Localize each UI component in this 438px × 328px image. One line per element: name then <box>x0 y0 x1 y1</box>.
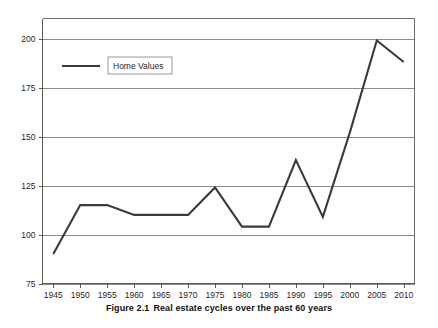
tick-marks-group <box>39 40 405 288</box>
x-axis-label-1985: 1985 <box>259 290 278 300</box>
x-axis-label-1975: 1975 <box>206 290 225 300</box>
y-axis-label-100: 100 <box>21 230 35 240</box>
y-axis-label-125: 125 <box>21 181 35 191</box>
x-axis-label-1955: 1955 <box>98 290 117 300</box>
x-axis-label-1945: 1945 <box>44 290 63 300</box>
figure-caption-text: Real estate cycles over the past 60 year… <box>153 303 332 313</box>
y-axis-label-75: 75 <box>26 279 36 289</box>
legend-label-home-values: Home Values <box>113 61 163 71</box>
x-axis-label-1950: 1950 <box>71 290 90 300</box>
chart-plot-area: 75100125150175200 1945195019551960196519… <box>0 0 438 300</box>
y-axis-tick-labels: 75100125150175200 <box>21 34 35 289</box>
x-axis-label-1995: 1995 <box>313 290 332 300</box>
x-axis-label-1965: 1965 <box>152 290 171 300</box>
x-axis-label-2000: 2000 <box>340 290 359 300</box>
figure-caption-number: Figure 2.1 <box>106 303 150 313</box>
figure-container: 75100125150175200 1945195019551960196519… <box>0 0 438 328</box>
x-axis-label-2005: 2005 <box>367 290 386 300</box>
line-chart: 75100125150175200 1945195019551960196519… <box>0 0 438 300</box>
data-line-home-values <box>53 40 403 254</box>
chart-legend: Home Values <box>62 57 172 74</box>
data-series-group <box>53 40 403 254</box>
gridlines-group <box>43 40 415 285</box>
y-axis-label-175: 175 <box>21 83 35 93</box>
x-axis-label-2010: 2010 <box>394 290 413 300</box>
x-axis-label-1990: 1990 <box>286 290 305 300</box>
plot-frame <box>43 19 415 284</box>
figure-caption: Figure 2.1Real estate cycles over the pa… <box>0 303 438 313</box>
x-axis-tick-labels: 1945195019551960196519701975198019851990… <box>44 290 414 300</box>
x-axis-label-1970: 1970 <box>179 290 198 300</box>
x-axis-label-1960: 1960 <box>125 290 144 300</box>
y-axis-label-150: 150 <box>21 132 35 142</box>
x-axis-label-1980: 1980 <box>233 290 252 300</box>
y-axis-label-200: 200 <box>21 34 35 44</box>
